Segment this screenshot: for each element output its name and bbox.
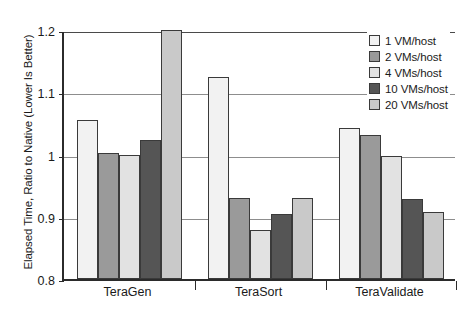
bar <box>423 212 444 279</box>
y-tick-label: 1.2 <box>15 25 55 39</box>
legend-item: 1 VM/host <box>369 33 448 48</box>
legend-item-label: 1 VM/host <box>385 35 436 47</box>
bar <box>271 214 292 279</box>
bar <box>119 155 140 280</box>
y-tick-mark <box>59 157 64 158</box>
y-tick-mark <box>59 281 64 282</box>
y-tick-label: 1.1 <box>15 87 55 101</box>
x-axis-group-label: TeraGen <box>104 285 152 299</box>
bar <box>339 128 360 279</box>
legend-item: 2 VMs/host <box>369 49 448 64</box>
bar <box>381 156 402 279</box>
y-tick-label: 0.9 <box>15 212 55 226</box>
bar <box>77 120 98 279</box>
x-axis-separator-tick <box>326 281 327 290</box>
bar <box>98 153 119 279</box>
bar <box>360 135 381 279</box>
legend-item: 20 VMs/host <box>369 97 448 112</box>
legend-swatch-icon <box>369 35 380 46</box>
legend-swatch-icon <box>369 83 380 94</box>
legend-item-label: 10 VMs/host <box>385 83 448 95</box>
legend-item: 10 VMs/host <box>369 81 448 96</box>
legend-swatch-icon <box>369 99 380 110</box>
bar <box>161 30 182 279</box>
y-tick-mark <box>59 32 64 33</box>
x-axis-group-label: TeraValidate <box>355 285 424 299</box>
bar <box>292 198 313 279</box>
bar <box>250 230 271 279</box>
y-tick-mark <box>59 219 64 220</box>
x-axis-end-tick <box>456 281 457 290</box>
legend-swatch-icon <box>369 67 380 78</box>
bar-chart: Elapsed Time, Ratio to Native (Lower Is … <box>0 0 474 317</box>
bar <box>229 198 250 279</box>
legend-swatch-icon <box>369 51 380 62</box>
y-tick-label: 1 <box>15 150 55 164</box>
legend-item: 4 VMs/host <box>369 65 448 80</box>
legend-item-label: 20 VMs/host <box>385 99 448 111</box>
bar <box>208 77 229 279</box>
bar <box>402 199 423 279</box>
x-axis-group-label: TeraSort <box>235 285 282 299</box>
legend-item-label: 4 VMs/host <box>385 67 442 79</box>
x-axis-separator-tick <box>195 281 196 290</box>
y-tick-mark <box>59 94 64 95</box>
y-tick-label: 0.8 <box>15 274 55 288</box>
bar <box>140 140 161 279</box>
legend: 1 VM/host2 VMs/host4 VMs/host10 VMs/host… <box>367 31 450 114</box>
legend-item-label: 2 VMs/host <box>385 51 442 63</box>
